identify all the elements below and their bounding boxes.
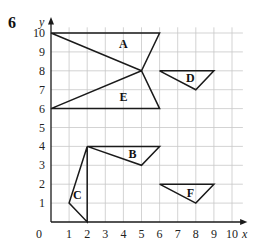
x-axis-label: x (241, 227, 248, 241)
x-tick-label: 5 (139, 227, 145, 241)
y-tick-label: 4 (39, 139, 45, 153)
shape-f: F (160, 184, 214, 203)
x-tick-label: 1 (66, 227, 72, 241)
x-axis-arrow-icon (240, 219, 247, 225)
coordinate-grid-diagram: 01234567891012345678910xyABCDEF (0, 0, 261, 250)
x-tick-label: 4 (120, 227, 126, 241)
shape-label: F (187, 186, 194, 200)
x-tick-label: 2 (84, 227, 90, 241)
shape-label: A (119, 37, 128, 51)
y-tick-label: 1 (39, 196, 45, 210)
shape-label: D (186, 71, 195, 85)
x-tick-label: 10 (226, 227, 238, 241)
y-axis-arrow-icon (48, 17, 54, 25)
y-tick-label: 6 (39, 102, 45, 116)
y-tick-label: 8 (39, 64, 45, 78)
y-tick-label: 9 (39, 45, 45, 59)
shape-label: E (119, 90, 127, 104)
y-axis-label: y (38, 15, 45, 29)
x-tick-label: 3 (102, 227, 108, 241)
x-tick-label: 0 (36, 227, 42, 241)
shape-label: B (128, 147, 136, 161)
shape-d: D (160, 71, 214, 90)
shape-label: C (73, 188, 82, 202)
x-tick-label: 6 (157, 227, 163, 241)
x-tick-label: 7 (175, 227, 181, 241)
y-tick-label: 7 (39, 83, 45, 97)
x-tick-label: 8 (193, 227, 199, 241)
y-tick-label: 5 (39, 121, 45, 135)
y-tick-label: 3 (39, 158, 45, 172)
x-tick-label: 9 (211, 227, 217, 241)
y-tick-label: 2 (39, 177, 45, 191)
